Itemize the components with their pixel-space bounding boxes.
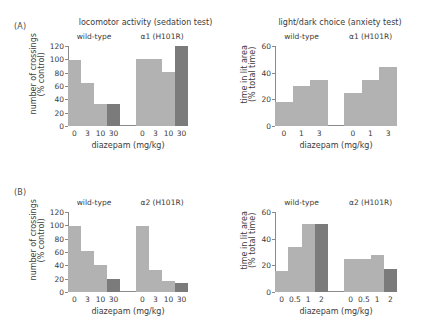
x-tick-label: 30: [177, 295, 187, 304]
y-tick-label: 80: [54, 68, 64, 77]
x-axis-title: diazepam (mg/kg): [275, 141, 397, 150]
y-axis-title: time in lit area(% total time): [241, 200, 258, 280]
y-tick-label: 40: [261, 68, 271, 77]
x-tick-label: 3: [317, 129, 322, 138]
x-tick-label: 30: [109, 295, 119, 304]
chart-lightdark-panel-b: wild-typeα2 (H101R)time in lit area(% to…: [215, 164, 430, 328]
bar: [302, 224, 315, 292]
x-tick-label: 1: [306, 295, 311, 304]
x-tick-label: 3: [153, 129, 158, 138]
x-tick-label: 1: [375, 295, 380, 304]
bar: [149, 59, 162, 126]
y-tick: [272, 73, 275, 74]
bar: [175, 46, 188, 126]
x-tick-label: 3: [85, 129, 90, 138]
x-tick-label: 2: [388, 295, 393, 304]
bar: [68, 60, 81, 126]
y-tick-label: 40: [54, 261, 64, 270]
y-tick-label: 60: [54, 82, 64, 91]
y-tick: [272, 212, 275, 213]
group-label: α1 (H101R): [344, 32, 397, 41]
x-tick-label: 0: [348, 295, 353, 304]
y-tick: [272, 265, 275, 266]
bar: [94, 104, 107, 126]
x-tick-label: 0: [140, 129, 145, 138]
y-tick-label: 80: [54, 234, 64, 243]
bar: [68, 226, 81, 292]
y-tick-label: 120: [50, 42, 64, 51]
x-axis-title: diazepam (mg/kg): [275, 307, 397, 316]
group-label: wild-type: [275, 32, 328, 41]
y-tick-label: 60: [261, 42, 271, 51]
y-tick: [272, 239, 275, 240]
x-tick-label: 10: [164, 129, 174, 138]
bar: [362, 80, 380, 126]
x-tick-label: 30: [177, 129, 187, 138]
y-tick-label: 0: [266, 288, 271, 297]
y-tick: [65, 212, 68, 213]
bar: [344, 259, 357, 292]
plot-area: 020406080100120: [68, 212, 188, 292]
y-tick-label: 100: [50, 221, 64, 230]
group-label: wild-type: [68, 32, 120, 41]
x-tick-label: 2: [319, 295, 324, 304]
panel-a: (A) locomotor activity (sedation test) l…: [0, 0, 430, 164]
y-axis-title: number of crossings(% control): [30, 34, 47, 114]
bar: [310, 80, 328, 126]
bar: [357, 259, 370, 292]
y-tick-label: 0: [266, 122, 271, 131]
x-tick-label: 3: [153, 295, 158, 304]
plot-area: 020406080100120: [68, 46, 188, 126]
y-tick-label: 0: [59, 122, 64, 131]
y-tick: [65, 46, 68, 47]
y-tick: [272, 46, 275, 47]
y-tick-label: 20: [54, 108, 64, 117]
figure-root: (A) locomotor activity (sedation test) l…: [0, 0, 430, 328]
group-label: α2 (H101R): [136, 198, 188, 207]
bar: [136, 226, 149, 292]
x-tick-label: 0: [140, 295, 145, 304]
y-tick: [272, 126, 275, 127]
y-tick-label: 120: [50, 208, 64, 217]
x-tick-label: 1: [368, 129, 373, 138]
x-tick-label: 30: [109, 129, 119, 138]
x-tick-label: 0.5: [289, 295, 301, 304]
x-tick-label: 0: [72, 129, 77, 138]
bar: [107, 104, 120, 126]
bar: [315, 224, 328, 292]
y-tick-label: 100: [50, 55, 64, 64]
y-tick-label: 0: [59, 288, 64, 297]
y-tick-label: 40: [261, 234, 271, 243]
y-tick: [65, 126, 68, 127]
bar: [288, 247, 301, 292]
group-label: α2 (H101R): [344, 198, 397, 207]
plot-area: 0204060: [275, 212, 397, 292]
bar: [81, 251, 94, 292]
group-label: α1 (H101R): [136, 32, 188, 41]
panel-b: (B) wild-typeα2 (H101R)number of crossin…: [0, 164, 430, 328]
x-tick-label: 10: [96, 295, 106, 304]
bar: [149, 270, 162, 292]
x-tick-label: 3: [85, 295, 90, 304]
y-tick-label: 60: [261, 208, 271, 217]
y-tick: [65, 292, 68, 293]
x-axis-title: diazepam (mg/kg): [68, 141, 188, 150]
x-tick-label: 10: [164, 295, 174, 304]
x-axis-title: diazepam (mg/kg): [68, 307, 188, 316]
chart-locomotor-panel-b: wild-typeα2 (H101R)number of crossings(%…: [0, 164, 215, 328]
bar: [344, 93, 362, 126]
bar: [136, 59, 149, 126]
bar: [107, 279, 120, 292]
bar: [94, 265, 107, 292]
x-tick-label: 3: [386, 129, 391, 138]
x-tick-label: 0: [281, 129, 286, 138]
bar: [162, 281, 175, 292]
y-tick-label: 60: [54, 248, 64, 257]
y-tick-label: 40: [54, 95, 64, 104]
group-label: wild-type: [275, 198, 328, 207]
bar: [81, 83, 94, 126]
bar: [384, 269, 397, 292]
y-axis-title: time in lit area(% total time): [241, 34, 258, 114]
x-tick-label: 0.5: [358, 295, 370, 304]
bar: [175, 283, 188, 292]
